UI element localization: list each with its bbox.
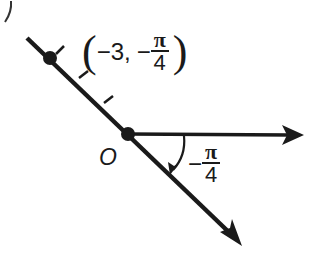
point-label-theta-den: 4 (154, 52, 166, 74)
tick-mark-3 (104, 96, 113, 103)
angle-label-sign: − (188, 150, 202, 177)
point-marker (43, 51, 57, 65)
angle-arc (173, 136, 184, 170)
point-label-sep: , (124, 38, 131, 65)
polar-axis (128, 134, 290, 135)
partial-paren-mark (5, 1, 11, 22)
angle-label-num: π (205, 142, 217, 162)
angle-label: −π4 (188, 142, 220, 186)
point-label-theta-sign: − (137, 38, 151, 65)
point-label-theta-fraction: π4 (151, 30, 169, 74)
terminal-ray-arrowhead (220, 219, 242, 246)
angle-label-den: 4 (205, 164, 217, 186)
origin-label: O (99, 146, 117, 169)
tick-mark-1 (56, 46, 64, 54)
point-label-r: −3 (97, 38, 124, 65)
point-label: (−3, −π4) (82, 30, 187, 74)
angle-label-fraction: π4 (202, 142, 220, 186)
point-label-open-paren: ( (82, 27, 97, 76)
point-label-theta-num: π (154, 30, 166, 50)
origin-marker (121, 127, 135, 141)
polar-diagram: (−3, −π4) O −π4 (0, 0, 315, 257)
point-label-close-paren: ) (173, 27, 188, 76)
